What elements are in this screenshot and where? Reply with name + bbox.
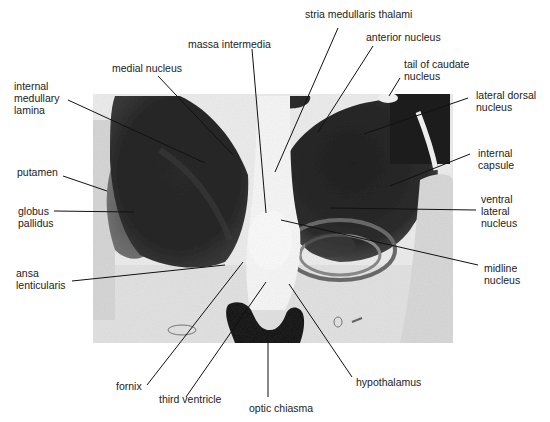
label-ansa-lenticularis: ansa lenticularis <box>16 267 66 291</box>
label-ventral-lateral-nucleus: ventral lateral nucleus <box>481 193 517 229</box>
brain-section-figure: massa intermedia stria medullaris thalam… <box>0 0 550 422</box>
label-internal-capsule: internal capsule <box>478 147 514 171</box>
label-internal-medullary-lamina: internal medullary lamina <box>14 80 60 116</box>
label-third-ventricle: third ventricle <box>159 393 221 405</box>
label-optic-chiasma: optic chiasma <box>249 402 313 414</box>
label-tail-of-caudate-nucleus: tail of caudate nucleus <box>404 58 469 82</box>
label-lateral-dorsal-nucleus: lateral dorsal nucleus <box>476 89 536 113</box>
label-hypothalamus: hypothalamus <box>356 376 421 388</box>
label-medial-nucleus: medial nucleus <box>112 62 182 74</box>
label-putamen: putamen <box>17 166 58 178</box>
label-anterior-nucleus: anterior nucleus <box>366 31 441 43</box>
label-fornix: fornix <box>116 380 142 392</box>
label-globus-pallidus: globus pallidus <box>18 205 54 229</box>
label-stria-medullaris-thalami: stria medullaris thalami <box>305 8 412 20</box>
label-massa-intermedia: massa intermedia <box>188 38 271 50</box>
label-midline-nucleus: midline nucleus <box>484 262 520 286</box>
